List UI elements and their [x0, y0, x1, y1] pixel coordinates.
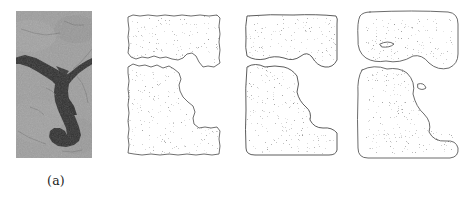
panel-b: (b) [124, 10, 224, 160]
sar-image-a [16, 11, 92, 158]
figure-container: (a) [0, 0, 469, 207]
panel-a-caption: (a) [26, 173, 86, 188]
panel-c: (c) [241, 10, 341, 160]
panel-d: (d) [354, 8, 462, 162]
